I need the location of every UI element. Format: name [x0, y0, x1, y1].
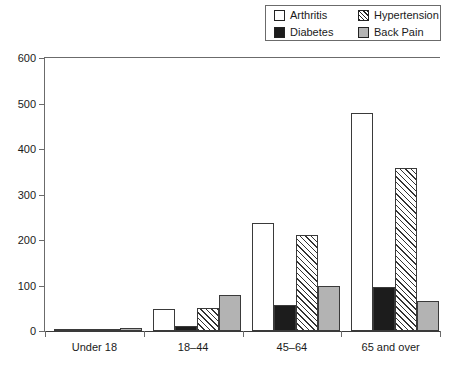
bar-hypertension — [98, 329, 120, 331]
legend-label-back-pain: Back Pain — [374, 27, 424, 38]
y-axis-tick — [39, 240, 45, 241]
y-axis-label: 100 — [18, 281, 36, 292]
legend-item-hypertension: Hypertension — [358, 7, 449, 24]
x-axis-tick — [440, 331, 441, 337]
x-axis-tick — [144, 331, 145, 337]
bar-arthritis — [351, 113, 373, 331]
legend-swatch-hypertension — [358, 10, 369, 21]
bar-back-pain — [417, 301, 439, 331]
bar-arthritis — [153, 309, 175, 331]
legend-swatch-back-pain — [358, 27, 369, 38]
bar-diabetes — [274, 305, 296, 331]
x-axis-label: 65 and over — [362, 341, 420, 353]
y-axis-label: 600 — [18, 53, 36, 64]
legend-item-back-pain: Back Pain — [358, 24, 449, 41]
bar-hypertension — [395, 168, 417, 331]
bar-chart: Arthritis Hypertension Diabetes Back Pai… — [0, 0, 449, 367]
y-axis-tick — [39, 104, 45, 105]
y-axis-tick — [39, 286, 45, 287]
bar-group — [252, 58, 340, 331]
legend-swatch-arthritis — [274, 10, 285, 21]
bar-group — [351, 58, 439, 331]
legend-label-diabetes: Diabetes — [290, 27, 333, 38]
bar-arthritis — [54, 329, 76, 331]
bar-back-pain — [318, 286, 340, 332]
x-axis-tick — [243, 331, 244, 337]
bar-back-pain — [219, 295, 241, 331]
legend-swatch-diabetes — [274, 27, 285, 38]
legend-label-hypertension: Hypertension — [374, 10, 439, 21]
x-axis-tick — [45, 331, 46, 337]
y-axis-label: 500 — [18, 99, 36, 110]
x-axis-tick — [341, 331, 342, 337]
y-axis-tick — [39, 149, 45, 150]
legend-item-diabetes: Diabetes — [274, 24, 358, 41]
y-axis-label: 300 — [18, 190, 36, 201]
y-axis-tick — [39, 58, 45, 59]
chart-legend: Arthritis Hypertension Diabetes Back Pai… — [265, 5, 441, 41]
legend-label-arthritis: Arthritis — [290, 10, 327, 21]
plot-area: 0100200300400500600Under 1818–4445–6465 … — [44, 57, 440, 332]
y-axis-label: 0 — [30, 326, 36, 337]
bar-arthritis — [252, 223, 274, 331]
bar-hypertension — [197, 308, 219, 331]
bar-diabetes — [76, 329, 98, 331]
bar-group — [54, 58, 142, 331]
bar-hypertension — [296, 235, 318, 331]
x-axis-label: 45–64 — [277, 341, 308, 353]
y-axis-label: 400 — [18, 144, 36, 155]
legend-item-arthritis: Arthritis — [274, 7, 358, 24]
y-axis-label: 200 — [18, 235, 36, 246]
bar-back-pain — [120, 328, 142, 331]
x-axis-label: Under 18 — [72, 341, 117, 353]
y-axis-tick — [39, 195, 45, 196]
x-axis-label: 18–44 — [178, 341, 209, 353]
bar-diabetes — [175, 326, 197, 331]
bar-group — [153, 58, 241, 331]
bar-diabetes — [373, 287, 395, 331]
